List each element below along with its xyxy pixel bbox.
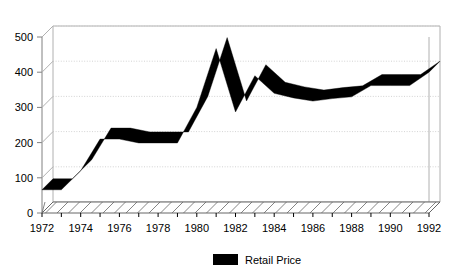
x-tick-label: 1992	[417, 222, 441, 234]
x-tick-label: 1990	[378, 222, 402, 234]
chart-canvas: 1972197419761978198019821984198619881990…	[0, 0, 457, 273]
y-tick-label: 400	[15, 66, 33, 78]
x-tick-label: 1976	[107, 222, 131, 234]
x-tick-label: 1986	[301, 222, 325, 234]
legend-swatch-retail-price	[213, 254, 238, 265]
y-axis-labels: 0100200300400500	[15, 31, 33, 219]
y-tick-label: 300	[15, 101, 33, 113]
y-tick-label: 200	[15, 137, 33, 149]
x-tick-label: 1978	[146, 222, 170, 234]
x-tick-label: 1988	[339, 222, 363, 234]
legend: Retail Price	[213, 254, 301, 266]
x-tick-label: 1980	[185, 222, 209, 234]
x-axis-ticks	[42, 213, 429, 217]
y-tick-label: 0	[27, 207, 33, 219]
x-tick-label: 1982	[223, 222, 247, 234]
plot-back-wall	[53, 26, 440, 202]
x-tick-label: 1974	[68, 222, 92, 234]
x-tick-label: 1984	[262, 222, 286, 234]
y-tick-label: 500	[15, 31, 33, 43]
y-tick-label: 100	[15, 172, 33, 184]
retail-price-chart: 1972197419761978198019821984198619881990…	[0, 0, 457, 273]
x-tick-label: 1972	[30, 222, 54, 234]
legend-label-retail-price: Retail Price	[245, 254, 301, 266]
x-axis-labels: 1972197419761978198019821984198619881990…	[30, 222, 441, 234]
chart-floor	[42, 202, 440, 213]
